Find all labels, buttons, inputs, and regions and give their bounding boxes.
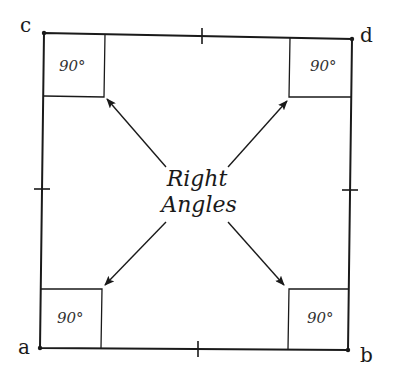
right-angles-diagram: 90° 90° 90° 90° c d a b Right Angles bbox=[0, 0, 395, 382]
vertex-a-dot bbox=[38, 346, 42, 350]
angle-label-d: 90° bbox=[310, 57, 337, 75]
arrow-to-b bbox=[228, 222, 284, 285]
vertex-label-b: b bbox=[360, 343, 373, 367]
angle-label-b: 90° bbox=[307, 309, 334, 327]
vertex-b-dot bbox=[346, 348, 350, 352]
angle-label-a: 90° bbox=[57, 309, 84, 327]
arrow-to-d bbox=[228, 101, 287, 167]
arrow-to-a bbox=[105, 222, 166, 285]
center-label-line2: Angles bbox=[159, 192, 237, 217]
vertex-label-c: c bbox=[20, 13, 31, 37]
vertex-d-dot bbox=[350, 37, 354, 41]
arrow-to-c bbox=[107, 99, 166, 167]
angle-label-c: 90° bbox=[59, 57, 86, 75]
vertex-label-a: a bbox=[18, 335, 30, 359]
vertex-c-dot bbox=[42, 31, 46, 35]
center-label-line1: Right bbox=[166, 166, 228, 191]
vertex-label-d: d bbox=[360, 23, 373, 47]
